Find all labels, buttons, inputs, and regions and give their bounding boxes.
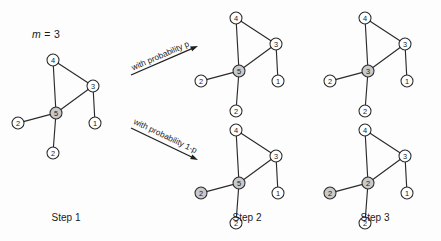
graph-edge — [405, 50, 406, 76]
node-label: 4 — [234, 14, 238, 23]
node-circle-shaded — [362, 65, 374, 77]
node-circle-plain — [272, 187, 284, 199]
parameter-symbol: m — [32, 28, 41, 40]
node-label: 2 — [328, 189, 332, 198]
graph-node: 5 — [233, 65, 245, 77]
arrow-label: with probability p — [129, 38, 191, 72]
graph-edge — [241, 21, 272, 41]
graph-edge — [335, 72, 362, 79]
arrows-layer: with probability pwith probability 1-p — [129, 38, 199, 160]
graph-edge — [370, 133, 401, 153]
node-label: 1 — [93, 119, 97, 128]
node-circle-plain — [89, 117, 101, 129]
arrow-shaft — [131, 128, 194, 158]
step-label-1: Step 1 — [36, 212, 96, 223]
parameter-value: = 3 — [44, 28, 60, 40]
node-circle-shaded — [50, 107, 62, 119]
arrow-shaft — [131, 48, 194, 75]
node-label: 4 — [234, 126, 238, 135]
node-circle-plain — [47, 147, 59, 159]
graph-edge — [53, 66, 55, 108]
node-label: 2 — [234, 107, 238, 116]
node-circle-plain — [399, 38, 411, 50]
graph-node: 4 — [359, 124, 371, 136]
graph-node: 2 — [195, 187, 207, 199]
graph-edge — [236, 24, 238, 66]
figure-canvas: m = 3 435221435221435221433221432221 wit… — [0, 0, 441, 241]
graph-edge — [365, 77, 367, 106]
node-label: 2 — [199, 189, 203, 198]
node-label: 2 — [51, 149, 55, 158]
arrow-label: with probability 1-p — [131, 116, 199, 155]
graph-node: 3 — [270, 150, 282, 162]
graph-node: 4 — [230, 12, 242, 24]
graph-edge — [373, 159, 401, 179]
edges — [23, 63, 94, 147]
graph-node: 4 — [47, 54, 59, 66]
node-label: 1 — [276, 189, 280, 198]
graph-edge — [335, 184, 362, 191]
graph-edge — [276, 162, 277, 188]
graph-node: 1 — [401, 75, 413, 87]
node-circle-plain — [87, 80, 99, 92]
step-label-3: Step 3 — [345, 212, 405, 223]
graph-node: 2 — [195, 75, 207, 87]
graph-node: 2 — [324, 187, 336, 199]
graph-node: 3 — [270, 38, 282, 50]
node-label: 2 — [363, 107, 367, 116]
node-label: 3 — [403, 40, 407, 49]
node-circle-plain — [401, 75, 413, 87]
node-label: 2 — [199, 77, 203, 86]
node-circle-shaded — [362, 177, 374, 189]
graph-node: 2 — [47, 147, 59, 159]
node-label: 1 — [405, 77, 409, 86]
node-circle-plain — [359, 105, 371, 117]
node-label: 3 — [403, 152, 407, 161]
node-label: 1 — [276, 77, 280, 86]
node-circle-plain — [324, 75, 336, 87]
graph-node: 3 — [399, 38, 411, 50]
graph-edge — [23, 114, 50, 121]
node-label: 5 — [54, 109, 58, 118]
graph-edge — [93, 92, 94, 118]
node-circle-plain — [230, 124, 242, 136]
graph-node: 3 — [399, 150, 411, 162]
graph-edge — [373, 47, 401, 67]
edges — [206, 133, 277, 217]
node-label: 3 — [274, 40, 278, 49]
node-circle-plain — [399, 150, 411, 162]
arrow-head — [190, 46, 198, 51]
step2-upper-graph: 435221 — [195, 12, 284, 117]
graph-node: 1 — [272, 75, 284, 87]
graph-edge — [276, 50, 277, 76]
node-circle-plain — [230, 105, 242, 117]
graph-node: 1 — [401, 187, 413, 199]
node-label: 3 — [274, 152, 278, 161]
node-label: 5 — [237, 179, 241, 188]
parameter-label: m = 3 — [32, 28, 60, 40]
edges — [206, 21, 277, 105]
node-circle-plain — [359, 124, 371, 136]
edges — [335, 21, 406, 105]
graph-node: 4 — [230, 124, 242, 136]
graph-edge — [365, 136, 367, 178]
graph-edge — [405, 162, 406, 188]
graph-edge — [365, 24, 367, 66]
node-circle-plain — [272, 75, 284, 87]
node-circle-plain — [47, 54, 59, 66]
node-circle-plain — [270, 38, 282, 50]
graph-node: 3 — [362, 65, 374, 77]
graph-node: 1 — [89, 117, 101, 129]
node-circle-shaded — [324, 187, 336, 199]
edges — [335, 133, 406, 217]
node-label: 1 — [405, 189, 409, 198]
node-circle-plain — [270, 150, 282, 162]
graph-edge — [53, 119, 55, 148]
graph-node: 1 — [272, 187, 284, 199]
node-circle-plain — [12, 117, 24, 129]
branch-arrow-lower-branch: with probability 1-p — [131, 116, 199, 160]
graph-node: 2 — [362, 177, 374, 189]
node-circle-plain — [230, 12, 242, 24]
graph-edge — [61, 89, 89, 109]
graph-edge — [370, 21, 401, 41]
